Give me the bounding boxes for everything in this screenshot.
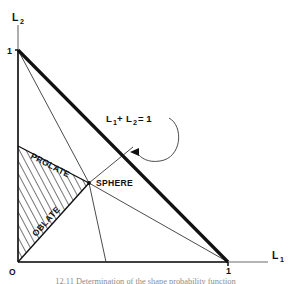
hypotenuse-line [18,50,228,262]
y-axis-tick-label: 1 [7,46,12,56]
equation-plus: + [117,113,123,124]
sphere-point-marker [87,181,91,185]
sphere-label: SPHERE [96,178,133,188]
shape-probability-diagram: L 2 L 1 1 1 O L 1 + L 2 = 1 SPHERE PROLA… [0,0,291,284]
equation-leader-curve [137,118,179,161]
equation-sub-2: 2 [133,118,137,127]
origin-label: O [9,267,16,277]
y-axis-label-base: L [12,11,19,23]
y-axis-label-sub: 2 [20,17,24,26]
x-axis-label-base: L [272,249,279,261]
sphere-to-xaxis-line [89,183,106,262]
equation-lhs-2: L [126,113,132,124]
equation-arrowhead-icon [130,148,139,156]
sphere-to-xunit-line [89,183,228,262]
equation-rhs: = 1 [138,113,152,124]
equation-lhs-1: L [106,113,112,124]
equation-label: L 1 + L 2 = 1 [106,113,152,127]
hatched-region [10,135,105,270]
figure-root: L 2 L 1 1 1 O L 1 + L 2 = 1 SPHERE PROLA… [0,0,291,284]
x-axis-label-sub: 1 [280,255,284,264]
figure-caption: 12.11 Determination of the shape probabi… [0,277,291,284]
x-axis-tick-label: 1 [226,266,231,276]
